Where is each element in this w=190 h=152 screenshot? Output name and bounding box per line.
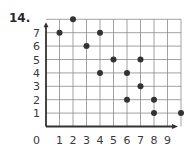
data-point (151, 110, 157, 116)
data-point (151, 97, 157, 103)
grid-lines (46, 19, 181, 126)
y-tick-label: 1 (33, 107, 40, 120)
y-axis-arrow-icon (44, 22, 49, 27)
x-axis-arrow-icon (172, 124, 178, 129)
data-point (84, 43, 90, 49)
data-point (138, 57, 144, 63)
y-tick-label: 6 (33, 40, 40, 53)
data-point (70, 16, 76, 22)
x-axis-tick-labels: 123456789 (56, 134, 171, 147)
data-points (57, 16, 185, 116)
y-tick-label: 4 (33, 67, 40, 80)
data-point (57, 30, 63, 36)
x-tick-label: 3 (83, 134, 90, 147)
x-tick-label: 5 (110, 134, 117, 147)
data-point (111, 57, 117, 63)
x-tick-label: 8 (151, 134, 158, 147)
x-tick-label: 1 (56, 134, 63, 147)
y-tick-label: 5 (33, 54, 40, 67)
x-tick-label: 7 (137, 134, 144, 147)
data-point (138, 83, 144, 89)
scatter-plot: 14. 1234567 123456789 0 (0, 0, 190, 152)
y-tick-label: 7 (33, 27, 40, 40)
y-axis-tick-labels: 1234567 (33, 27, 40, 120)
x-tick-label: 9 (164, 134, 171, 147)
origin-label: 0 (33, 134, 40, 147)
data-point (178, 110, 184, 116)
x-tick-label: 4 (97, 134, 104, 147)
data-point (97, 70, 103, 76)
problem-number: 14. (9, 11, 30, 25)
y-tick-label: 3 (33, 80, 40, 93)
y-tick-label: 2 (33, 94, 40, 107)
data-point (97, 30, 103, 36)
x-tick-label: 6 (124, 134, 131, 147)
x-tick-label: 2 (70, 134, 77, 147)
data-point (124, 97, 130, 103)
data-point (124, 70, 130, 76)
